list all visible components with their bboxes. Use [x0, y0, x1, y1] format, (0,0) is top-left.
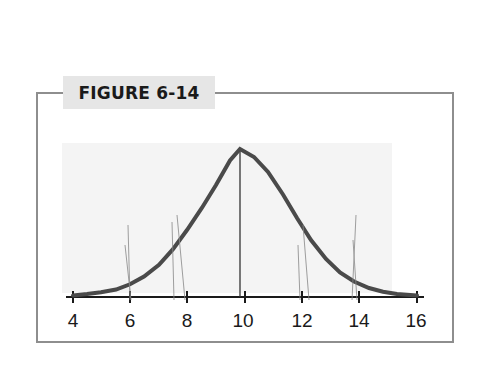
tick-label-12: 12: [291, 310, 312, 332]
tick-label-14: 14: [348, 310, 369, 332]
normal-curve: [73, 149, 417, 295]
tick-label-10: 10: [232, 310, 253, 332]
tick-label-6: 6: [125, 310, 136, 332]
tick-label-8: 8: [182, 310, 193, 332]
tick-label-4: 4: [68, 310, 79, 332]
tick-label-16: 16: [405, 310, 426, 332]
pencil-marks: [125, 215, 357, 300]
figure-title: FIGURE 6-14: [78, 83, 199, 103]
figure-title-box: FIGURE 6-14: [63, 76, 215, 109]
